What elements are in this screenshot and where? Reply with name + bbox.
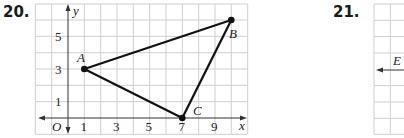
x-tick: 5 [146,119,153,134]
y-arrow-down-icon [66,127,71,134]
point-c [179,115,186,122]
point-c-label: C [193,103,202,118]
y-tick: 5 [55,29,62,44]
point-a [81,66,88,73]
x-axis-label: x [238,118,245,133]
x-arrow-left-icon [38,116,45,121]
x-tick: 3 [113,119,120,134]
y-tick: 3 [55,62,62,77]
point-b [228,17,235,24]
point-a-label: A [76,50,85,65]
y-arrow-up-icon [66,4,71,11]
x-arrow-left-21-icon [376,68,383,73]
coordinate-plane-20: y x O 1 3 5 7 9 1 3 5 A B C E [0,0,404,138]
x-tick: 1 [81,119,88,134]
point-e-label: E [392,53,401,68]
y-tick: 1 [55,94,62,109]
origin-label: O [52,119,62,134]
grid-lines [35,4,247,134]
x-tick: 9 [211,119,218,134]
y-axis-label: y [71,3,79,18]
point-b-label: B [229,26,237,41]
